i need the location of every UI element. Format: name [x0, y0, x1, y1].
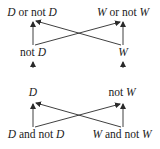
node-not-d: not D: [20, 47, 46, 59]
node-label-part: W: [92, 128, 102, 140]
node-label-part: W: [139, 6, 149, 18]
edge-group: [33, 21, 123, 127]
node-d-and-not-d: D and not D: [8, 129, 65, 141]
node-d-or-not-d: D or not D: [7, 7, 57, 19]
node-not-w: not W: [108, 87, 135, 99]
node-label-part: W: [126, 86, 136, 98]
node-label-part: or not: [107, 6, 140, 18]
node-label-part: W: [142, 128, 152, 140]
node-label-part: D: [56, 128, 64, 140]
arrows-layer: [0, 0, 160, 149]
node-label-part: or not: [16, 6, 49, 18]
node-d: D: [29, 87, 37, 99]
node-label-part: D: [48, 6, 56, 18]
node-label-part: not: [20, 46, 38, 58]
node-label-part: D: [29, 86, 37, 98]
node-label-part: D: [38, 46, 46, 58]
node-w: W: [118, 47, 128, 59]
node-label-part: not: [108, 86, 126, 98]
node-w-and-not-w: W and not W: [92, 129, 151, 141]
node-label-part: and not: [102, 128, 142, 140]
node-label-part: and not: [16, 128, 56, 140]
node-label-part: W: [118, 46, 128, 58]
node-label-part: W: [97, 6, 107, 18]
node-w-or-not-w: W or not W: [97, 7, 149, 19]
